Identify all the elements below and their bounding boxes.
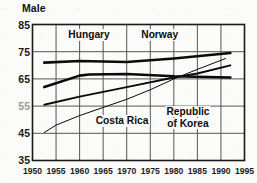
series-label-republic: Republic xyxy=(165,106,210,118)
x-tick-1980: 1980 xyxy=(164,166,183,176)
x-tick-1955: 1955 xyxy=(46,166,65,176)
x-tick-1960: 1960 xyxy=(70,166,89,176)
x-tick-1990: 1990 xyxy=(211,166,230,176)
chart-container: Male 85 75 65 55 45 35 HungaryNorwayCost… xyxy=(0,0,257,183)
x-tick-1970: 1970 xyxy=(117,166,136,176)
x-tick-1995: 1995 xyxy=(235,166,254,176)
plot-frame xyxy=(33,25,245,161)
series-line-norway xyxy=(44,53,230,63)
x-tick-1965: 1965 xyxy=(94,166,113,176)
series-label-norway: Norway xyxy=(140,29,179,41)
gridlines xyxy=(33,25,245,161)
series-label-of-korea: of Korea xyxy=(166,118,209,130)
x-tick-1985: 1985 xyxy=(188,166,207,176)
x-tick-1975: 1975 xyxy=(141,166,160,176)
series-label-costa-rica: Costa Rica xyxy=(95,115,150,127)
x-tick-1950: 1950 xyxy=(23,166,42,176)
plot-area xyxy=(0,0,257,183)
series-label-hungary: Hungary xyxy=(67,29,110,41)
series-line-republic-of-korea xyxy=(44,65,230,104)
x-axis: 1950195519601965197019751980198519901995 xyxy=(0,166,257,180)
